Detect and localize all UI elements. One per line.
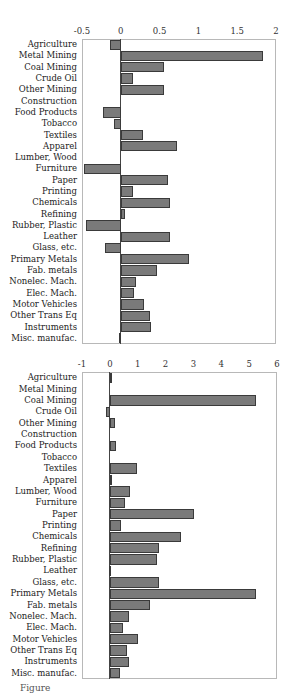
category-label: Lumber, Wood [15, 486, 77, 497]
bar [106, 407, 110, 417]
x-tick-label: 5 [246, 359, 251, 369]
bar [110, 463, 137, 473]
bar [110, 498, 126, 508]
category-label: Agriculture [28, 372, 77, 383]
category-label: Coal Mining [24, 395, 77, 406]
bar [110, 395, 256, 405]
bar [110, 373, 112, 383]
x-tick-label: 4 [219, 359, 224, 369]
figure-caption: Figure [20, 683, 50, 693]
category-label: Motor Vehicles [12, 634, 77, 645]
chart-bottom: -10123456AgricultureMetal MiningCoal Min… [0, 0, 295, 694]
bar [110, 611, 129, 621]
x-tick-label: 2 [163, 359, 168, 369]
category-label: Chemicals [32, 531, 77, 542]
bar [110, 441, 116, 451]
bar [109, 566, 111, 576]
bar [110, 475, 112, 485]
category-label: Food Products [15, 440, 77, 451]
bar [110, 634, 138, 644]
category-label: Rubber, Plastic [12, 554, 77, 565]
category-label: Misc. manufac. [11, 668, 77, 679]
category-label: Paper [52, 509, 77, 520]
category-label: Tobacco [42, 452, 77, 463]
bar [110, 668, 120, 678]
category-label: Textiles [44, 463, 77, 474]
x-tick-label: 3 [191, 359, 196, 369]
category-label: Leather [43, 565, 77, 576]
category-label: Primary Metals [11, 588, 78, 599]
x-tick-label: 0 [107, 359, 112, 369]
bar [110, 600, 150, 610]
bar [110, 645, 128, 655]
category-label: Construction [21, 429, 77, 440]
category-label: Instruments [25, 656, 78, 667]
x-tick-label: 1 [135, 359, 140, 369]
bar [110, 486, 130, 496]
category-label: Crude Oil [35, 406, 77, 417]
x-tick-label: 6 [274, 359, 279, 369]
category-label: Elec. Mach. [26, 622, 77, 633]
category-label: Glass, etc. [32, 577, 77, 588]
bar [110, 520, 121, 530]
category-label: Printing [42, 520, 77, 531]
category-label: Other Mining [19, 418, 77, 429]
category-label: Apparel [43, 475, 77, 486]
bar [110, 623, 123, 633]
bar [110, 532, 182, 542]
category-label: Furniture [35, 497, 77, 508]
bar [110, 554, 157, 564]
bar [110, 509, 194, 519]
bar [110, 418, 115, 428]
category-label: Nonelec. Mach. [9, 611, 77, 622]
bar [110, 577, 159, 587]
category-label: Metal Mining [19, 384, 77, 395]
x-tick-label: -1 [78, 359, 86, 369]
bar [110, 543, 159, 553]
bar [110, 657, 130, 667]
category-label: Other Trans Eq [10, 645, 77, 656]
bar [110, 589, 256, 599]
category-label: Refining [41, 543, 77, 554]
category-label: Fab. metals [27, 600, 77, 611]
